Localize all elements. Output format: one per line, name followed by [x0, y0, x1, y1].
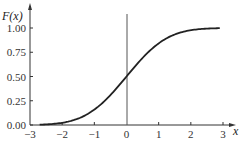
x-tick-label: 3: [220, 128, 226, 140]
x-tick-label: 1: [156, 128, 162, 140]
y-ticks: 0.000.250.500.751.00: [7, 22, 33, 131]
y-axis-label: F(x): [1, 9, 23, 23]
y-axis-arrow-icon: [28, 3, 32, 10]
x-tick-label: −2: [56, 128, 68, 140]
y-tick-label: 1.00: [7, 22, 27, 34]
y-tick-label: 0.50: [7, 71, 27, 83]
x-tick-label: 2: [188, 128, 194, 140]
cdf-chart: 0.000.250.500.751.00 −3−2−10123 F(x) x: [0, 0, 243, 150]
x-tick-label: 0: [124, 128, 130, 140]
x-tick-label: −1: [88, 128, 100, 140]
y-tick-label: 0.75: [7, 46, 27, 58]
cdf-curve: [40, 28, 220, 124]
x-axis-label: x: [232, 124, 239, 138]
y-tick-label: 0.25: [7, 95, 27, 107]
x-tick-label: −3: [24, 128, 36, 140]
